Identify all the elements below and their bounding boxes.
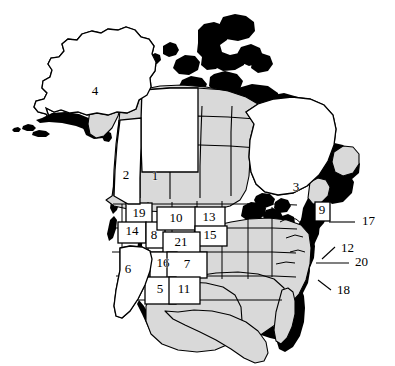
region-label-3: 3 <box>293 179 300 194</box>
region-label-18: 18 <box>337 282 350 297</box>
north-america-numbered-map: 1234567891011131415161921 17122018 <box>0 0 395 366</box>
region-label-7: 7 <box>184 256 191 271</box>
map-svg: 1234567891011131415161921 17122018 <box>0 0 395 366</box>
region-label-10: 10 <box>170 210 183 225</box>
region-label-21: 21 <box>175 234 188 249</box>
region-label-14: 14 <box>126 223 140 238</box>
region-label-16: 16 <box>157 255 171 270</box>
region-label-20: 20 <box>355 254 368 269</box>
region-label-1: 1 <box>152 168 159 183</box>
region-label-11: 11 <box>178 281 191 296</box>
region-label-13: 13 <box>203 209 216 224</box>
region-label-19: 19 <box>133 205 146 220</box>
region-label-6: 6 <box>125 261 132 276</box>
region-label-4: 4 <box>92 83 99 98</box>
region-label-2: 2 <box>123 167 130 182</box>
region-label-5: 5 <box>157 281 164 296</box>
region-label-12: 12 <box>341 240 354 255</box>
region-label-15: 15 <box>204 227 217 242</box>
region-box-1 <box>141 88 198 172</box>
region-label-17: 17 <box>362 213 376 228</box>
region-label-9: 9 <box>319 202 326 217</box>
region-label-8: 8 <box>151 227 158 242</box>
region-box-2 <box>114 118 141 204</box>
